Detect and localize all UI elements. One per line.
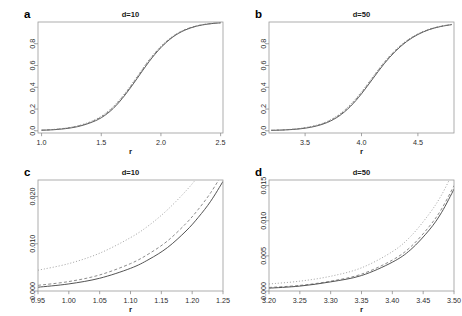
curve-curve-1	[42, 23, 221, 131]
curve-curve-2	[271, 25, 451, 131]
curve-curve-3	[271, 24, 451, 130]
curve-curve-1	[271, 25, 451, 131]
panel-title-b: d=50	[353, 10, 371, 19]
y-tick-label: 0.010	[259, 212, 268, 230]
curve-curve-2	[42, 23, 221, 130]
x-tick-label: 1.25	[216, 296, 230, 305]
x-tick-label: 2.0	[156, 138, 166, 147]
x-tick-label: 1.0	[37, 138, 47, 147]
panel-c: cd=100.951.001.051.101.151.201.250.0000.…	[0, 158, 231, 316]
x-axis-d: 3.203.253.303.353.403.453.50	[262, 291, 461, 305]
x-tick-label: 4.0	[357, 138, 367, 147]
x-tick-label: 3.35	[355, 296, 369, 305]
y-tick-label: 0.6	[259, 61, 268, 71]
y-axis-b: 0.00.20.40.60.8	[259, 39, 269, 136]
x-tick-label: 1.20	[185, 296, 199, 305]
panel-b-curves	[271, 24, 451, 130]
panel-letter-c: c	[24, 166, 31, 178]
x-tick-label: 1.15	[154, 296, 168, 305]
panel-a: ad=101.01.52.02.50.00.20.40.60.8r	[0, 0, 231, 158]
panel-b: bd=503.54.04.50.00.20.40.60.8r	[231, 0, 462, 158]
plot-frame-b	[269, 22, 454, 133]
y-axis-c: 0.0000.0100.020	[28, 188, 38, 300]
curve-curve-lower	[269, 189, 454, 288]
x-tick-label: 3.40	[385, 296, 399, 305]
x-tick-label: 3.25	[293, 296, 307, 305]
x-tick-label: 3.45	[416, 296, 430, 305]
y-tick-label: 0.6	[28, 61, 37, 71]
y-tick-label: 0.2	[28, 104, 37, 114]
panel-title-a: d=10	[122, 10, 140, 19]
figure-canvas: ad=101.01.52.02.50.00.20.40.60.8r bd=503…	[0, 0, 462, 316]
y-tick-label: 0.005	[259, 247, 268, 265]
x-axis-title-b: r	[360, 147, 363, 156]
panel-title-c: d=10	[122, 168, 140, 177]
x-tick-label: 2.5	[216, 138, 226, 147]
y-tick-label: 0.4	[28, 82, 37, 92]
panel-d-curves	[269, 170, 454, 288]
y-tick-label: 0.010	[28, 235, 37, 253]
curve-curve-upper	[269, 170, 454, 284]
x-tick-label: 1.05	[93, 296, 107, 305]
plot-frame-a	[38, 22, 223, 133]
panel-letter-a: a	[24, 8, 31, 20]
panel-letter-d: d	[255, 166, 262, 178]
panel-d: dd=503.203.253.303.353.403.453.500.0000.…	[231, 158, 462, 316]
x-tick-label: 3.50	[447, 296, 461, 305]
x-axis-title-c: r	[129, 305, 132, 314]
y-tick-label: 0.8	[259, 39, 268, 49]
curve-curve-middle	[269, 186, 454, 288]
x-axis-title-a: r	[129, 147, 132, 156]
y-tick-label: 0.0	[28, 126, 37, 136]
panel-c-plot: cd=100.951.001.051.101.151.201.250.0000.…	[0, 158, 231, 316]
y-tick-label: 0.020	[28, 188, 37, 206]
x-tick-label: 3.30	[324, 296, 338, 305]
panel-b-plot: bd=503.54.04.50.00.20.40.60.8r	[231, 0, 462, 158]
x-axis-a: 1.01.52.02.5	[37, 133, 226, 147]
y-tick-label: 0.4	[259, 82, 268, 92]
curve-curve-3	[42, 23, 221, 130]
y-tick-label: 0.8	[28, 39, 37, 49]
y-tick-label: 0.0	[259, 126, 268, 136]
panel-a-curves	[42, 23, 221, 131]
x-tick-label: 3.5	[300, 138, 310, 147]
x-tick-label: 1.10	[124, 296, 138, 305]
plot-frame-c	[38, 180, 223, 291]
x-tick-label: 1.5	[96, 138, 106, 147]
x-axis-b: 3.54.04.5	[300, 133, 423, 147]
y-tick-label: 0.000	[28, 282, 37, 300]
x-axis-c: 0.951.001.051.101.151.201.25	[31, 291, 230, 305]
x-axis-title-d: r	[360, 305, 363, 314]
y-axis-d: 0.0000.0050.0100.015	[259, 177, 269, 300]
y-axis-a: 0.00.20.40.60.8	[28, 39, 38, 136]
panel-a-plot: ad=101.01.52.02.50.00.20.40.60.8r	[0, 0, 231, 158]
panel-letter-b: b	[255, 8, 262, 20]
panel-d-plot: dd=503.203.253.303.353.403.453.500.0000.…	[231, 158, 462, 316]
panel-c-curves	[38, 158, 223, 287]
x-tick-label: 1.00	[62, 296, 76, 305]
y-tick-label: 0.2	[259, 104, 268, 114]
curve-curve-lower	[38, 181, 223, 287]
y-tick-label: 0.000	[259, 282, 268, 300]
y-tick-label: 0.015	[259, 177, 268, 195]
x-tick-label: 4.5	[413, 138, 423, 147]
panel-title-d: d=50	[353, 168, 371, 177]
